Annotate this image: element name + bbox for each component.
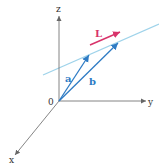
vector-b: [59, 43, 118, 101]
vector-a-label: a: [65, 73, 72, 84]
vector-diagram: z y x 0 a b L: [0, 0, 159, 164]
origin-label: 0: [48, 97, 54, 107]
x-axis-label: x: [9, 155, 14, 164]
z-axis-label: z: [56, 4, 61, 14]
y-axis-label: y: [147, 97, 154, 107]
x-axis: [15, 101, 59, 155]
vector-b-label: b: [89, 76, 96, 87]
direction-label-L: L: [95, 28, 102, 39]
